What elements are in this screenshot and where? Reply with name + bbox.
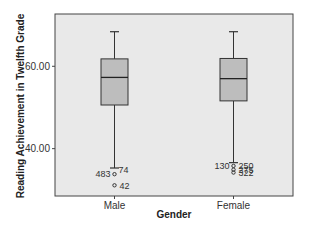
x-tick-label: Male <box>104 200 126 211</box>
boxplot-chart: 40.0060.00 MaleFemale 744834225013027532… <box>0 0 309 226</box>
outlier-label: 322 <box>239 168 254 178</box>
y-tick-label: 40.00 <box>25 143 50 154</box>
outlier-label: 130 <box>214 161 229 171</box>
iqr-box <box>220 58 247 100</box>
x-tick-label: Female <box>217 200 251 211</box>
outlier-label: 74 <box>119 165 129 175</box>
y-axis: 40.0060.00 <box>25 61 55 154</box>
y-tick-label: 60.00 <box>25 61 50 72</box>
outlier-label: 483 <box>95 169 110 179</box>
y-axis-label: Reading Achievement in Twelfth Grade <box>15 13 26 198</box>
plot-area <box>55 14 293 196</box>
x-axis-label: Gender <box>156 209 191 220</box>
iqr-box <box>101 59 128 105</box>
outlier-label: 42 <box>120 181 130 191</box>
